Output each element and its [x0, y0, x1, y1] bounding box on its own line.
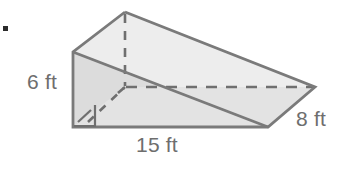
- dimension-label-width: 8 ft: [296, 108, 326, 129]
- dimension-label-length: 15 ft: [136, 134, 178, 155]
- dimension-label-height: 6 ft: [27, 71, 57, 92]
- triangular-prism-figure: 6 ft 15 ft 8 ft: [0, 0, 343, 174]
